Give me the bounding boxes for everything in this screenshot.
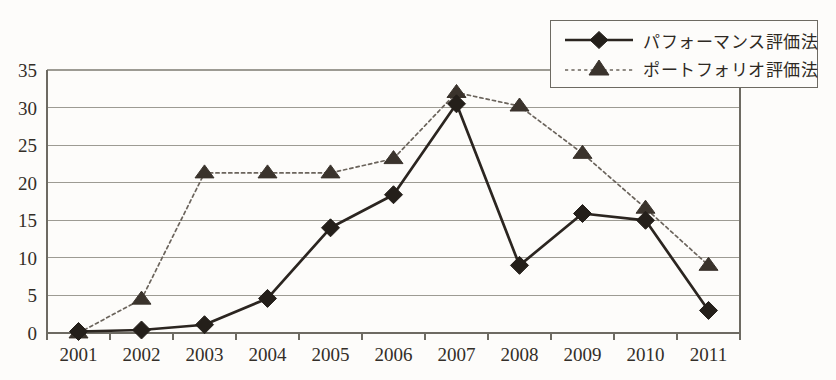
data-point-performance-2002 <box>133 321 151 339</box>
x-tick-label-2006: 2006 <box>375 344 413 365</box>
series-dotted-markers <box>69 84 718 337</box>
x-tick-label-2010: 2010 <box>627 344 665 365</box>
x-tick-label-2008: 2008 <box>501 344 539 365</box>
legend-label-performance: パフォーマンス評価法 <box>643 28 818 53</box>
x-tick-label-2002: 2002 <box>123 344 161 365</box>
y-tick-label-35: 35 <box>18 60 37 81</box>
tick-marks-group <box>47 333 740 340</box>
series-solid-line <box>79 104 709 332</box>
legend-label-portfolio: ポートフォリオ評価法 <box>643 56 818 81</box>
x-tick-label-2003: 2003 <box>186 344 224 365</box>
y-tick-label-30: 30 <box>18 98 37 119</box>
polyline-portfolio <box>79 93 709 333</box>
legend-item-performance: パフォーマンス評価法 <box>563 28 807 53</box>
data-point-performance-2011 <box>700 301 718 319</box>
y-axis-tick-labels: 05101520253035 <box>18 60 37 344</box>
polyline-performance <box>79 104 709 332</box>
x-axis-tick-labels: 2001200220032004200520062007200820092010… <box>60 344 728 365</box>
y-tick-label-15: 15 <box>18 210 37 231</box>
data-point-portfolio-2004 <box>258 165 277 178</box>
chart-legend: パフォーマンス評価法 ポートフォリオ評価法 <box>550 20 818 88</box>
triangle-marker-icon <box>563 57 635 79</box>
y-tick-label-5: 5 <box>28 285 38 306</box>
data-point-portfolio-2003 <box>195 165 214 178</box>
diamond-marker-icon <box>563 29 635 51</box>
y-tick-label-20: 20 <box>18 173 37 194</box>
data-point-portfolio-2009 <box>573 145 592 158</box>
data-point-performance-2006 <box>385 186 403 204</box>
x-tick-label-2007: 2007 <box>438 344 476 365</box>
x-tick-label-2001: 2001 <box>60 344 98 365</box>
data-point-portfolio-2002 <box>132 291 151 304</box>
x-tick-label-2005: 2005 <box>312 344 350 365</box>
x-tick-label-2009: 2009 <box>564 344 602 365</box>
data-point-performance-2003 <box>196 316 214 334</box>
x-tick-label-2004: 2004 <box>249 344 288 365</box>
legend-item-portfolio: ポートフォリオ評価法 <box>563 56 807 81</box>
chart-page: 05101520253035 2001200220032004200520062… <box>0 0 836 380</box>
y-tick-label-0: 0 <box>28 323 38 344</box>
x-tick-label-2011: 2011 <box>690 344 727 365</box>
y-tick-label-25: 25 <box>18 135 37 156</box>
y-tick-label-10: 10 <box>18 248 37 269</box>
series-dotted-line <box>79 93 709 333</box>
